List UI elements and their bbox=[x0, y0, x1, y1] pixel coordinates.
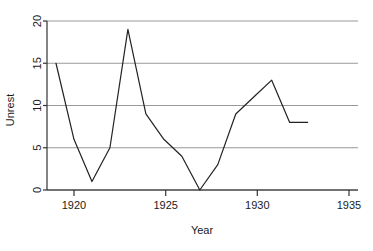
x-tick-label-1920: 1920 bbox=[62, 199, 86, 211]
line-chart: 20 15 10 5 0 1920 1925 1930 1935 Year Un… bbox=[0, 0, 373, 251]
chart-figure: 20 15 10 5 0 1920 1925 1930 1935 Year Un… bbox=[0, 0, 373, 251]
x-tick-label-1930: 1930 bbox=[245, 199, 269, 211]
y-tick-label-10: 10 bbox=[31, 99, 43, 111]
x-tick-label-1925: 1925 bbox=[153, 199, 177, 211]
x-tick-label-1935: 1935 bbox=[337, 199, 361, 211]
y-tick-label-0: 0 bbox=[31, 187, 43, 193]
y-tick-label-5: 5 bbox=[31, 145, 43, 151]
figure-background bbox=[0, 0, 373, 251]
y-tick-label-15: 15 bbox=[31, 57, 43, 69]
x-axis-title: Year bbox=[191, 224, 214, 236]
y-tick-label-20: 20 bbox=[31, 15, 43, 27]
y-axis-title: Unrest bbox=[4, 94, 16, 126]
